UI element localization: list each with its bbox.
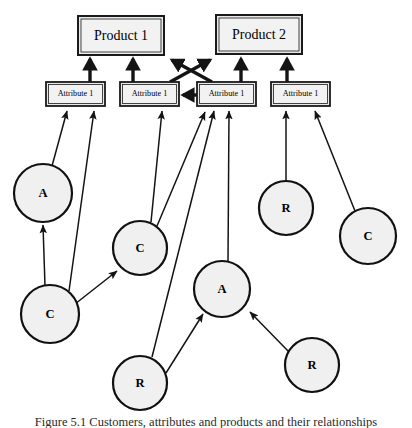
product-box-1-label: Product 1 xyxy=(94,28,148,43)
product-box-1[interactable]: Product 1 xyxy=(78,16,164,55)
figure-caption: Figure 5.1 Customers, attributes and pro… xyxy=(0,414,412,428)
entity-circle-c-mid[interactable]: C xyxy=(113,221,167,275)
entity-circle-r-bottom-label: R xyxy=(135,376,145,390)
attribute-box-1-label: Attribute 1 xyxy=(58,89,94,98)
entity-circle-c-right-label: C xyxy=(363,229,372,243)
entity-circle-a-mid-label: A xyxy=(217,282,226,296)
edge-a-left-to-attr1 xyxy=(52,111,67,166)
attribute-box-1[interactable]: Attribute 1 xyxy=(46,82,105,106)
attribute-box-4[interactable]: Attribute 1 xyxy=(271,82,330,106)
entity-circle-c-mid-label: C xyxy=(135,241,144,255)
edge-a-mid-to-attr3 xyxy=(228,111,229,261)
product-box-2-label: Product 2 xyxy=(232,27,286,42)
entity-circle-r-upper[interactable]: R xyxy=(259,181,313,235)
attribute-box-3[interactable]: Attribute 1 xyxy=(197,82,256,106)
edge-c-left-to-attr1 xyxy=(69,111,94,291)
edge-c-mid-to-attr3 xyxy=(157,112,205,226)
entity-circle-c-left-label: C xyxy=(45,307,54,321)
edge-r-bottom-to-a-mid xyxy=(166,314,203,373)
entity-circle-c-right[interactable]: C xyxy=(340,208,396,264)
product-box-2[interactable]: Product 2 xyxy=(216,15,302,54)
entity-circle-r-upper-label: R xyxy=(281,201,291,215)
entity-circle-r-right[interactable]: R xyxy=(285,338,339,392)
edge-c-mid-to-attr2 xyxy=(151,111,162,222)
edge-c-left-to-c-mid xyxy=(75,271,117,304)
attribute-box-2-label: Attribute 1 xyxy=(132,89,168,98)
edge-r-right-to-a-mid xyxy=(250,312,289,352)
entity-circle-a-left-label: A xyxy=(38,186,47,200)
entity-circle-r-right-label: R xyxy=(307,358,317,372)
entity-circle-a-mid[interactable]: A xyxy=(194,261,250,317)
attribute-box-3-label: Attribute 1 xyxy=(209,89,245,98)
entity-circle-c-left[interactable]: C xyxy=(21,285,79,343)
attribute-box-4-label: Attribute 1 xyxy=(283,89,319,98)
entity-circle-r-bottom[interactable]: R xyxy=(113,356,167,410)
edge-c-left-to-a-left xyxy=(43,225,45,286)
entity-circle-a-left[interactable]: A xyxy=(14,164,72,222)
attribute-box-2[interactable]: Attribute 1 xyxy=(120,82,179,106)
edge-c-right-to-attr4 xyxy=(315,111,355,211)
entity-link-edges xyxy=(43,111,355,373)
